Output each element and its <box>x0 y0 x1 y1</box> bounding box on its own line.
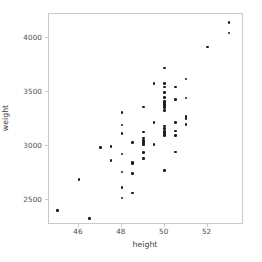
scatter-chart-figure: 2500300035004000 weight 46485052 height <box>0 0 262 262</box>
y-tick-label: 2500 <box>23 195 42 204</box>
y-tick-label: 4000 <box>23 32 42 41</box>
scatter-point <box>174 151 177 154</box>
x-tick-mark <box>121 224 122 227</box>
x-axis-label: height <box>133 240 158 249</box>
y-tick-label: 3500 <box>23 86 42 95</box>
scatter-point <box>206 46 209 49</box>
scatter-point <box>121 153 124 156</box>
scatter-point <box>142 106 145 109</box>
scatter-point <box>163 67 166 70</box>
scatter-point <box>185 123 188 126</box>
scatter-point <box>121 132 124 135</box>
x-axis-tick-labels: 46485052 <box>0 227 262 241</box>
scatter-point <box>121 171 124 174</box>
x-tick-mark <box>78 224 79 227</box>
plot-area <box>48 13 243 224</box>
scatter-point <box>163 96 166 99</box>
scatter-point <box>88 217 91 220</box>
scatter-point <box>163 109 166 112</box>
x-tick-mark <box>207 224 208 227</box>
scatter-point <box>185 78 188 81</box>
scatter-point <box>78 178 81 181</box>
scatter-point <box>131 162 134 165</box>
scatter-point <box>153 82 156 85</box>
scatter-point <box>163 134 166 137</box>
y-tick-mark <box>45 37 48 38</box>
scatter-point <box>228 21 231 24</box>
scatter-point <box>185 117 188 120</box>
scatter-point <box>131 141 134 144</box>
scatter-point <box>142 157 145 160</box>
scatter-point <box>228 32 231 35</box>
scatter-point <box>142 151 145 154</box>
scatter-point <box>56 209 59 212</box>
scatter-point <box>163 82 166 85</box>
scatter-point <box>99 146 102 149</box>
x-tick-label: 46 <box>73 227 82 236</box>
scatter-point <box>174 121 177 124</box>
scatter-point <box>174 130 177 133</box>
x-tick-mark <box>164 224 165 227</box>
x-tick-label: 50 <box>159 227 168 236</box>
scatter-point <box>121 124 124 127</box>
scatter-point <box>110 145 113 148</box>
scatter-point <box>110 159 113 162</box>
scatter-point <box>185 97 188 100</box>
scatter-point <box>142 144 145 147</box>
y-tick-mark <box>45 91 48 92</box>
scatter-points-layer <box>49 14 242 223</box>
y-axis-label: weight <box>1 105 10 131</box>
x-tick-label: 52 <box>202 227 211 236</box>
scatter-point <box>121 111 124 114</box>
scatter-point <box>163 91 166 94</box>
scatter-point <box>174 98 177 101</box>
scatter-point <box>131 172 134 175</box>
y-tick-mark <box>45 199 48 200</box>
scatter-point <box>153 121 156 124</box>
scatter-point <box>153 143 156 146</box>
scatter-point <box>142 131 145 134</box>
y-tick-mark <box>45 145 48 146</box>
x-tick-label: 48 <box>116 227 125 236</box>
scatter-point <box>121 197 124 200</box>
scatter-point <box>174 134 177 137</box>
scatter-point <box>131 192 134 195</box>
scatter-point <box>163 86 166 89</box>
scatter-point <box>163 169 166 172</box>
scatter-point <box>121 186 124 189</box>
scatter-point <box>174 86 177 89</box>
y-tick-label: 3000 <box>23 141 42 150</box>
